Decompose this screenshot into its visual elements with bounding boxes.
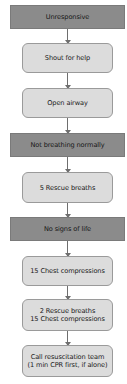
arrow-down-icon <box>67 203 68 217</box>
node-label: No signs of life <box>44 225 91 233</box>
arrow-down-icon <box>67 118 68 133</box>
node-fifteen-chest-compressions: 15 Chest compressions <box>22 256 113 286</box>
node-label-line-2: 15 Chest compressions <box>30 315 105 323</box>
node-unresponsive: Unresponsive <box>10 5 125 29</box>
node-not-breathing-normally: Not breathing normally <box>10 133 125 157</box>
arrow-down-icon <box>67 331 68 345</box>
arrow-down-icon <box>67 157 68 172</box>
arrow-down-icon <box>67 73 68 88</box>
node-label: 5 Rescue breaths <box>40 184 95 192</box>
arrow-down-icon <box>67 29 68 43</box>
node-five-rescue-breaths: 5 Rescue breaths <box>22 172 113 203</box>
arrow-down-icon <box>67 241 68 256</box>
node-open-airway: Open airway <box>22 88 113 118</box>
node-shout-for-help: Shout for help <box>22 43 113 73</box>
node-cycle-breaths-compressions: 2 Rescue breaths 15 Chest compressions <box>22 299 113 331</box>
node-label: Open airway <box>47 99 88 107</box>
node-label-line-1: 2 Rescue breaths <box>40 307 95 315</box>
node-label-line-2: (1 min CPR first, if alone) <box>28 361 108 369</box>
node-no-signs-of-life: No signs of life <box>10 217 125 241</box>
node-label-line-1: Call resuscitation team <box>31 353 105 361</box>
arrow-down-icon <box>67 286 68 299</box>
node-label: Not breathing normally <box>30 141 104 149</box>
node-label: Unresponsive <box>46 13 90 21</box>
node-call-resuscitation-team: Call resuscitation team (1 min CPR first… <box>22 345 113 377</box>
node-label: Shout for help <box>45 54 90 62</box>
node-label: 15 Chest compressions <box>30 267 105 275</box>
